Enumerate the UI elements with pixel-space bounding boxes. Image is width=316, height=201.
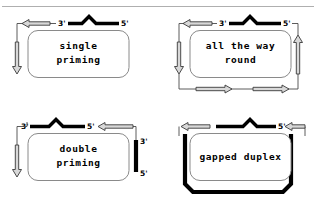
template-strand	[68, 17, 119, 24]
panel-all-the-way-round: 3' 5' all the way round	[175, 17, 303, 94]
synthesis-path-right-top	[292, 24, 298, 36]
end-label-5prime: 5'	[87, 122, 95, 131]
left-down-arrow-icon	[13, 145, 22, 177]
bottom-right-right-arrow-icon	[253, 85, 289, 93]
panel-double-priming: 3' 5' 3' 5' double priming	[13, 120, 148, 181]
secondary-end-label-5prime: 5'	[140, 169, 148, 178]
left-down-arrow-icon	[13, 42, 22, 74]
panel-caption-line2: priming	[56, 157, 100, 168]
figure-canvas: 3' 5' single priming 3' 5' all the way r…	[0, 0, 316, 201]
top-left-arrow-icon	[181, 123, 210, 131]
template-strand	[229, 17, 281, 24]
panel-caption-line1: gapped duplex	[199, 151, 281, 162]
bottom-left-right-arrow-icon	[196, 85, 232, 93]
top-right-left-arrow-icon	[98, 123, 133, 131]
left-down-arrow-icon	[175, 42, 184, 74]
panel-caption-line1: single	[60, 40, 98, 51]
panel-gapped-duplex: 5' gapped duplex	[179, 120, 305, 193]
template-strand	[30, 120, 85, 127]
end-label-5prime: 5'	[121, 19, 129, 28]
top-left-arrow-icon	[183, 20, 212, 28]
diagram-svg: 3' 5' single priming 3' 5' all the way r…	[0, 0, 316, 201]
top-left-arrow-icon	[22, 20, 50, 28]
secondary-end-label-3prime: 3'	[140, 137, 148, 146]
end-label-3prime: 3'	[58, 19, 66, 28]
panel-caption-line2: priming	[56, 54, 100, 65]
end-label-3prime: 3'	[219, 19, 227, 28]
right-up-arrow-icon	[294, 35, 303, 74]
panel-caption-line1: double	[60, 143, 98, 154]
top-right-arrow-icon	[285, 123, 305, 131]
template-strand	[216, 120, 276, 127]
end-label-5prime: 5'	[283, 19, 291, 28]
panel-caption-line1: all the way	[206, 40, 276, 51]
panel-caption-line2: round	[225, 54, 257, 65]
panel-single-priming: 3' 5' single priming	[13, 17, 130, 78]
